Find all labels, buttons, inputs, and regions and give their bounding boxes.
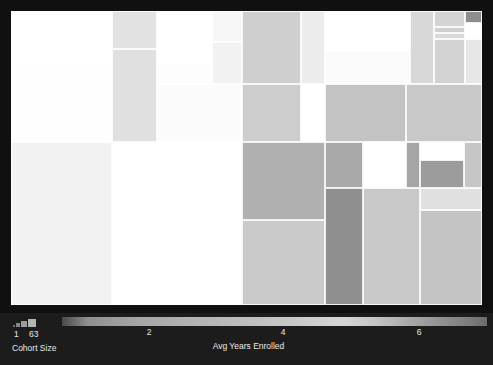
size-swatch-1 [13, 325, 15, 327]
treemap-tile[interactable] [242, 11, 301, 84]
treemap-tile[interactable] [157, 11, 212, 63]
treemap-tile[interactable] [11, 142, 112, 305]
color-legend[interactable]: 246 Avg Years Enrolled [62, 315, 487, 363]
size-legend-max-label: 63 [29, 328, 38, 340]
treemap-visualization: 1 63 Cohort Size 246 Avg Years Enrolled [0, 0, 493, 365]
treemap-tile[interactable] [325, 84, 406, 142]
color-legend-tick-6: 6 [417, 326, 422, 339]
color-legend-title: Avg Years Enrolled [62, 340, 487, 352]
treemap-tile[interactable] [242, 84, 301, 142]
treemap-tile[interactable] [242, 142, 325, 220]
treemap-tile[interactable] [465, 39, 482, 84]
color-legend-gradient-bar[interactable] [62, 317, 487, 326]
treemap-tile[interactable] [363, 142, 406, 188]
treemap-tile[interactable] [420, 160, 464, 188]
treemap-tile[interactable] [11, 11, 112, 64]
treemap-tile[interactable] [112, 49, 157, 142]
size-legend[interactable]: 1 63 Cohort Size [10, 315, 62, 363]
plot-frame [0, 0, 493, 313]
size-swatch-2 [16, 323, 20, 327]
color-legend-title-text: Avg Years Enrolled [213, 341, 285, 351]
treemap-tile[interactable] [212, 11, 242, 42]
treemap-tile[interactable] [465, 11, 482, 23]
size-legend-ticks: 1 63 [10, 328, 68, 340]
treemap-tile[interactable] [434, 11, 465, 27]
treemap-tile[interactable] [420, 142, 464, 160]
treemap-tile[interactable] [363, 188, 420, 305]
treemap-tile[interactable] [112, 11, 157, 49]
size-legend-swatches [13, 316, 36, 327]
treemap-tile[interactable] [212, 42, 242, 84]
size-legend-min-label: 1 [14, 328, 19, 340]
treemap-tile[interactable] [157, 84, 241, 142]
treemap-tile[interactable] [325, 188, 364, 305]
treemap-tile[interactable] [157, 63, 212, 84]
treemap-tile[interactable] [112, 226, 215, 305]
treemap-tile[interactable] [325, 142, 364, 188]
color-legend-tick-4: 4 [281, 326, 286, 339]
treemap-tile[interactable] [215, 142, 242, 305]
treemap-tile[interactable] [464, 142, 482, 188]
color-legend-ticks: 246 [62, 326, 487, 339]
color-legend-tick-2: 2 [147, 326, 152, 339]
treemap-tile[interactable] [11, 64, 112, 142]
treemap-tile[interactable] [242, 220, 325, 305]
treemap-tile[interactable] [406, 142, 420, 188]
size-swatch-4 [28, 319, 36, 327]
treemap-tile[interactable] [420, 210, 482, 305]
treemap-tile[interactable] [112, 142, 215, 226]
treemap-plot-area[interactable] [11, 11, 482, 305]
treemap-tile[interactable] [434, 39, 465, 84]
treemap-tile[interactable] [406, 84, 482, 142]
treemap-tile[interactable] [325, 51, 411, 84]
treemap-tile[interactable] [301, 11, 325, 84]
treemap-tile[interactable] [410, 11, 434, 84]
size-swatch-3 [21, 321, 27, 327]
size-legend-title: Cohort Size [12, 342, 56, 354]
legend-panel: 1 63 Cohort Size 246 Avg Years Enrolled [0, 313, 493, 365]
treemap-tile[interactable] [465, 23, 482, 39]
treemap-tile[interactable] [420, 188, 482, 210]
treemap-tile[interactable] [325, 11, 411, 51]
